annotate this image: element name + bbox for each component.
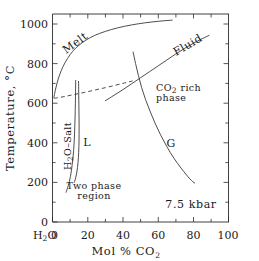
x-axis-title-mid: CO [131, 244, 155, 258]
x-axis-title-pre: Mol [91, 244, 119, 258]
x-axis-minor-ticks [70, 219, 211, 222]
label-G: G [167, 137, 176, 150]
top-axis-ticks [70, 14, 211, 19]
x-tick-labels: 0 20 40 60 80 100 [51, 229, 239, 242]
y-tick-label-400: 400 [27, 137, 48, 150]
y-tick-label-200: 200 [27, 176, 48, 189]
y-tick-label-600: 600 [27, 97, 48, 110]
origin-label-h2o: H2O [33, 229, 56, 244]
svg-text:H2O: H2O [33, 229, 56, 244]
x-axis-title-percent: % [120, 244, 132, 258]
annotation-pressure: 7.5 kbar [165, 198, 216, 211]
y-axis-title: Temperature, °C [3, 65, 17, 171]
y-axis-minor-ticks [53, 44, 56, 202]
label-fluid: Fluid [171, 32, 205, 59]
y-tick-labels: 0 200 400 600 800 1000 [20, 18, 48, 229]
label-melt: Melt [60, 30, 90, 57]
origin-label-post: O [47, 229, 56, 242]
y-tick-label-800: 800 [27, 58, 48, 71]
y-axis-title-text: Temperature, °C [3, 65, 17, 171]
phase-diagram-figure: 0 200 400 600 800 1000 0 20 40 60 80 100… [0, 0, 259, 261]
origin-label-pre: H [33, 229, 43, 242]
curve-melt-boundary-solidus-liquidus-upper-curve [54, 20, 172, 97]
label-L: L [83, 136, 91, 149]
phase-diagram-svg: 0 200 400 600 800 1000 0 20 40 60 80 100… [0, 0, 259, 261]
x-axis-title: Mol % CO2 [91, 244, 160, 260]
x-axis-title-sub: 2 [155, 251, 160, 260]
svg-text:Mol % CO2: Mol % CO2 [91, 244, 160, 260]
x-tick-label-100: 100 [218, 229, 239, 242]
label-co2-rich-phase-line2: phase [156, 92, 186, 103]
region-labels: Melt Fluid H2O–Salt L G CO2 rich phase T… [60, 30, 217, 211]
y-tick-label-0: 0 [41, 216, 48, 229]
x-tick-label-80: 80 [187, 229, 201, 242]
label-two-phase-region-line2: region [77, 190, 111, 201]
curve-two-phase-region-boundary-dashed-solvus [54, 81, 133, 98]
right-axis-ticks [224, 24, 229, 202]
x-tick-label-60: 60 [151, 229, 165, 242]
y-tick-label-1000: 1000 [20, 18, 48, 31]
curve-g-phase-boundary-descending-right-curve [133, 52, 195, 183]
x-tick-label-40: 40 [116, 229, 130, 242]
label-h2o-salt-post: O–Salt [62, 122, 73, 156]
label-h2o-salt-pre: H [62, 161, 73, 170]
x-tick-label-20: 20 [81, 229, 95, 242]
